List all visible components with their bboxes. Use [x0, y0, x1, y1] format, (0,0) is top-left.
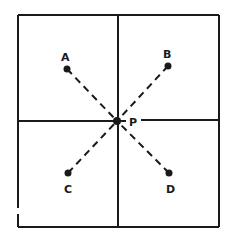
connector-d-p	[117, 121, 169, 173]
point-b	[165, 63, 172, 70]
diagram: ABCDP	[0, 0, 232, 246]
label-b: B	[163, 48, 171, 61]
label-d: D	[166, 183, 175, 196]
label-p: P	[129, 116, 137, 129]
point-a	[64, 66, 71, 73]
point-d	[166, 170, 173, 177]
label-c: C	[64, 183, 72, 196]
label-a: A	[61, 51, 70, 64]
point-p	[113, 117, 121, 125]
connector-c-p	[68, 121, 117, 173]
connector-b-p	[117, 66, 168, 121]
connector-a-p	[67, 69, 117, 121]
point-c	[65, 170, 72, 177]
